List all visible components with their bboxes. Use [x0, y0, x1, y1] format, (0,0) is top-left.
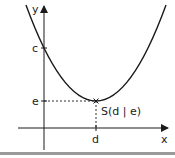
label-e: e	[32, 95, 39, 108]
bottom-divider	[0, 152, 175, 155]
parabola-diagram: y x c e d S(d | e)	[0, 0, 175, 158]
label-d: d	[92, 133, 99, 146]
label-c: c	[32, 42, 38, 55]
label-vertex: S(d | e)	[101, 105, 141, 118]
y-axis-label: y	[32, 3, 39, 16]
parabola-curve	[26, 5, 166, 101]
x-axis-label: x	[161, 133, 168, 146]
